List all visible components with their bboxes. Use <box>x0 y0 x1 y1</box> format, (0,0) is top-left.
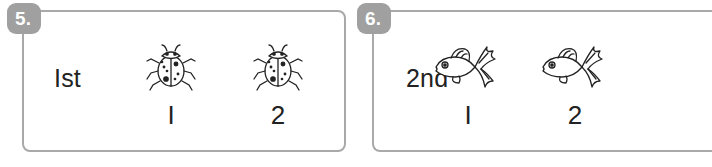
exercise-5-ordinal: Ist <box>54 64 81 93</box>
ladybug-icon <box>248 40 308 92</box>
exercise-6-number-badge: 6. <box>357 3 391 34</box>
option-label: I <box>464 100 471 130</box>
option-label: 2 <box>568 100 582 130</box>
exercise-5-option-2[interactable]: 2 <box>243 40 313 140</box>
goldfish-icon <box>545 40 605 92</box>
exercise-5-number-badge: 5. <box>7 3 41 34</box>
goldfish-icon <box>438 40 498 92</box>
exercise-6-option-2[interactable]: 2 <box>540 40 610 140</box>
exercise-6-option-1[interactable]: I <box>433 40 503 140</box>
exercise-5-option-1[interactable]: I <box>136 40 206 140</box>
option-label: 2 <box>271 100 285 130</box>
option-label: I <box>167 100 174 130</box>
ladybug-icon <box>141 40 201 92</box>
